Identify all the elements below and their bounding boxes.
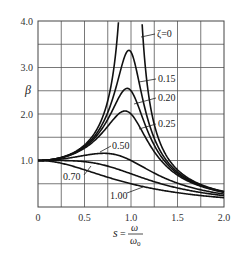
y-tick-label: 1.0 [21, 155, 34, 166]
y-tick-label: 3.0 [21, 62, 34, 73]
curve-label: 0.70 [63, 171, 81, 182]
y-axis-label: β [24, 83, 31, 97]
curve-label: 0.25 [158, 118, 176, 129]
curve-label: 0.15 [158, 73, 176, 84]
x-tick-label: 1.5 [171, 212, 184, 223]
x-tick-label: 0 [36, 212, 41, 223]
x-axis-label-denominator: ω [130, 235, 137, 246]
x-axis-label-eq: = [120, 228, 126, 239]
x-tick-label: 2.0 [218, 212, 231, 223]
y-tick-label: 4.0 [21, 16, 34, 27]
leader-line [100, 146, 111, 152]
leader-line [127, 187, 143, 193]
x-axis-label-s: s [113, 226, 118, 240]
curve-label: ζ=0 [157, 28, 172, 40]
x-axis-label-denominator-sub: 0 [137, 240, 141, 248]
x-tick-label: 0.5 [78, 212, 91, 223]
x-axis-label-numerator: ω [131, 222, 138, 233]
curve-label: 0.50 [112, 140, 130, 151]
curve-zeta-0-left [38, 22, 118, 160]
y-tick-label: 2.0 [21, 109, 34, 120]
curve-label: 1.00 [110, 190, 128, 201]
resonance-chart: ζ=00.150.200.250.500.701.00 00.51.01.52.… [0, 0, 243, 259]
leader-line [139, 124, 156, 129]
curve-label: 0.20 [158, 92, 176, 103]
leader-line [134, 98, 156, 104]
x-axis-label: s = ω ω 0 [113, 222, 143, 248]
